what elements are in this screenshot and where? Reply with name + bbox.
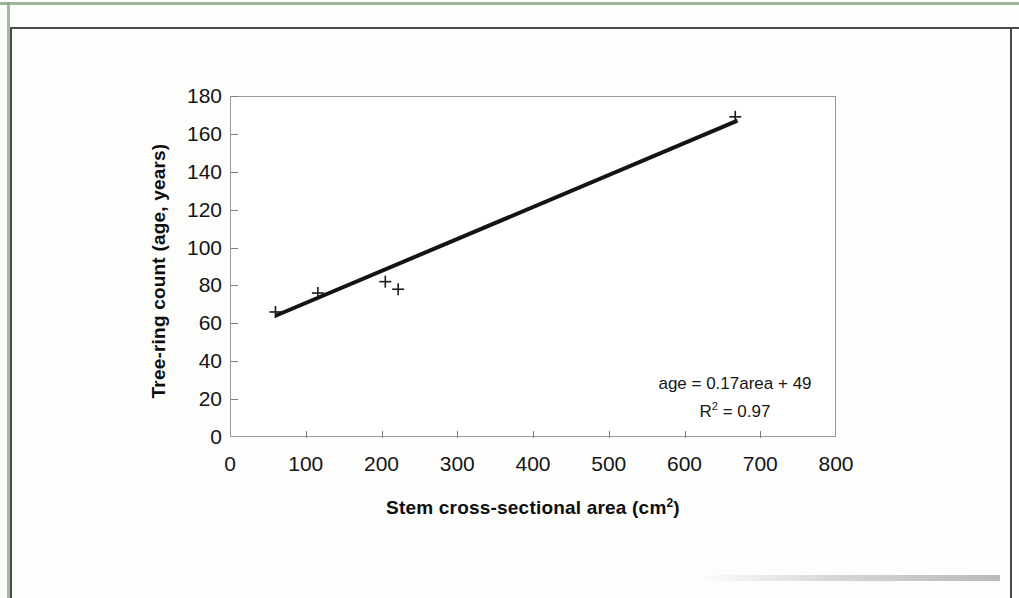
- x-axis-tick-labels: 0100200300400500600700800: [230, 452, 836, 482]
- x-tick-label: 800: [796, 452, 876, 475]
- x-tick-label: 400: [493, 452, 573, 475]
- x-tick-label: 500: [569, 452, 649, 475]
- x-tick-mark: [533, 431, 534, 438]
- y-axis-tick-marks: [231, 96, 239, 437]
- x-axis-title: Stem cross-sectional area (cm2): [230, 496, 836, 519]
- x-axis-title-paren: ): [673, 497, 680, 518]
- x-tick-mark: [306, 431, 307, 438]
- x-tick-label: 100: [266, 452, 346, 475]
- y-tick-mark: [231, 399, 238, 400]
- x-tick-mark: [382, 431, 383, 438]
- x-tick-mark: [457, 431, 458, 438]
- y-tick-label: 20: [162, 388, 222, 409]
- x-tick-mark: [760, 431, 761, 438]
- scatter-chart-figure: 020406080100120140160180 010020030040050…: [0, 0, 1019, 598]
- x-tick-label: 0: [190, 452, 270, 475]
- x-axis-tick-marks: [230, 430, 836, 438]
- y-tick-label: 140: [162, 161, 222, 182]
- y-tick-mark: [231, 210, 238, 211]
- y-tick-label: 100: [162, 237, 222, 258]
- regression-equation: age = 0.17area + 49: [640, 373, 830, 395]
- x-tick-label: 600: [645, 452, 725, 475]
- x-tick-mark: [609, 431, 610, 438]
- x-axis-title-text: Stem cross-sectional area (cm: [386, 497, 666, 518]
- y-tick-mark: [231, 323, 238, 324]
- x-tick-label: 700: [720, 452, 800, 475]
- y-tick-label: 40: [162, 350, 222, 371]
- y-tick-mark: [231, 248, 238, 249]
- y-tick-label: 180: [162, 85, 222, 106]
- r-squared-number: = 0.97: [718, 402, 770, 421]
- y-tick-mark: [231, 285, 238, 286]
- y-tick-mark: [231, 172, 238, 173]
- r-squared-value: R2 = 0.97: [640, 395, 830, 423]
- y-tick-label: 80: [162, 274, 222, 295]
- x-tick-label: 300: [417, 452, 497, 475]
- y-tick-mark: [231, 96, 238, 97]
- x-tick-mark: [685, 431, 686, 438]
- regression-annotation: age = 0.17area + 49 R2 = 0.97: [640, 373, 830, 423]
- r-squared-symbol: R: [700, 402, 712, 421]
- y-tick-label: 120: [162, 199, 222, 220]
- y-tick-mark: [231, 361, 238, 362]
- y-tick-mark: [231, 134, 238, 135]
- y-tick-label: 160: [162, 123, 222, 144]
- y-tick-label: 0: [162, 426, 222, 447]
- y-axis-title: Tree-ring count (age, years): [148, 0, 170, 571]
- x-tick-label: 200: [342, 452, 422, 475]
- y-tick-label: 60: [162, 312, 222, 333]
